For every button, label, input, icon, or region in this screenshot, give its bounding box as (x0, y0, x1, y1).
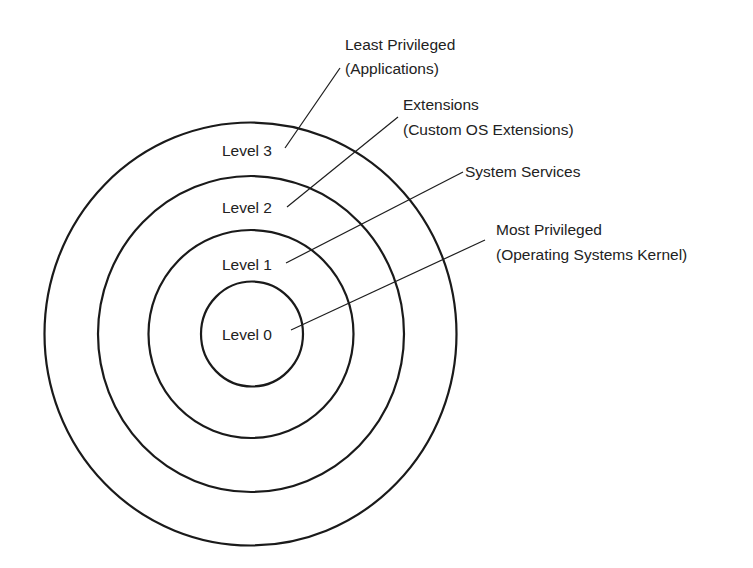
ring-label-level-2: Level 2 (222, 199, 272, 216)
leader-line-least-privileged (285, 68, 340, 148)
protection-rings-diagram: Level 3 Level 2 Level 1 Level 0 Least Pr… (0, 0, 753, 568)
ring-label-level-1: Level 1 (222, 256, 272, 273)
annotation-most-privileged-title: Most Privileged (496, 221, 602, 238)
annotation-extensions-subtitle: (Custom OS Extensions) (403, 121, 574, 138)
annotation-system-services-title: System Services (465, 163, 581, 180)
annotation-extensions-title: Extensions (403, 96, 479, 113)
ring-label-level-0: Level 0 (222, 326, 272, 343)
annotation-least-privileged-subtitle: (Applications) (345, 60, 439, 77)
annotation-least-privileged-title: Least Privileged (345, 36, 455, 53)
ring-label-level-3: Level 3 (222, 142, 272, 159)
annotation-most-privileged-subtitle: (Operating Systems Kernel) (496, 246, 687, 263)
